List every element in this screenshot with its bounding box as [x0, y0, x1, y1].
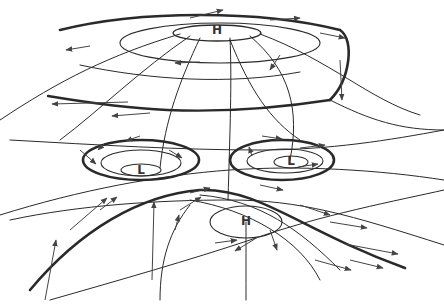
low-pressure-label-left: L: [137, 164, 145, 176]
high-top-isobars: [48, 15, 349, 111]
high-bottom-isobars: [10, 190, 444, 300]
high-pressure-label-top: H: [212, 24, 222, 36]
low-pressure-label-right: L: [287, 155, 295, 167]
pressure-diagram: [0, 0, 444, 307]
high-top-streamlines: [0, 34, 420, 200]
wind-arrows: [45, 10, 398, 300]
high-pressure-label-bottom: H: [241, 215, 251, 227]
